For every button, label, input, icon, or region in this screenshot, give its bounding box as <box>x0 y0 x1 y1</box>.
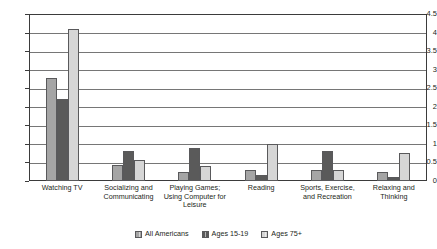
bars-layer <box>29 14 427 181</box>
legend-item[interactable]: All Americans <box>135 230 189 238</box>
bar-group <box>112 14 145 181</box>
legend-label: All Americans <box>145 230 189 238</box>
bar <box>134 160 145 181</box>
bar-group <box>178 14 211 181</box>
bar <box>200 166 211 181</box>
bar <box>256 175 267 181</box>
bar <box>123 151 134 181</box>
legend-label: Ages 75+ <box>271 230 302 238</box>
bar <box>377 172 388 181</box>
bar <box>68 29 79 181</box>
bar-chart: 4.543.532.521.510.50 Watching TVSocializ… <box>0 0 437 249</box>
bar <box>388 177 399 181</box>
bar <box>46 78 57 181</box>
x-axis-label: Watching TV <box>29 184 95 193</box>
x-axis-label: Reading <box>228 184 294 193</box>
bar <box>311 170 322 181</box>
bar <box>189 148 200 181</box>
legend-item[interactable]: Ages 75+ <box>261 230 302 238</box>
bar-group <box>46 14 79 181</box>
x-axis-label: Relaxing and Thinking <box>361 184 427 201</box>
bar <box>399 153 410 181</box>
legend-swatch-icon <box>261 231 268 238</box>
bar <box>57 99 68 181</box>
legend-swatch-icon <box>202 231 209 238</box>
bar <box>333 170 344 181</box>
y-axis-tick-mark <box>25 181 29 182</box>
legend-item[interactable]: Ages 15-19 <box>202 230 249 238</box>
x-axis-label: Playing Games; Using Computer for Leisur… <box>162 184 228 210</box>
bar <box>267 144 278 181</box>
bar-group <box>377 14 410 181</box>
bar-group <box>245 14 278 181</box>
x-axis-category-labels: Watching TVSocializing and Communicating… <box>29 184 427 224</box>
x-axis-label: Sports, Exercise, and Recreation <box>294 184 360 201</box>
bar <box>178 172 189 181</box>
bar <box>322 151 333 181</box>
legend-label: Ages 15-19 <box>212 230 249 238</box>
bar-group <box>311 14 344 181</box>
x-axis-label: Socializing and Communicating <box>95 184 161 201</box>
bar <box>245 170 256 181</box>
legend-swatch-icon <box>135 231 142 238</box>
bar <box>112 165 123 181</box>
chart-legend: All AmericansAges 15-19Ages 75+ <box>0 230 437 238</box>
